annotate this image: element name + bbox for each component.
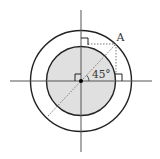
concentric-circles-diagram: A 45° [0, 0, 160, 159]
right-angle-marker-top [81, 38, 88, 45]
angle-label: 45° [92, 68, 111, 80]
center-point [79, 79, 83, 83]
point-a-label: A [116, 31, 126, 44]
